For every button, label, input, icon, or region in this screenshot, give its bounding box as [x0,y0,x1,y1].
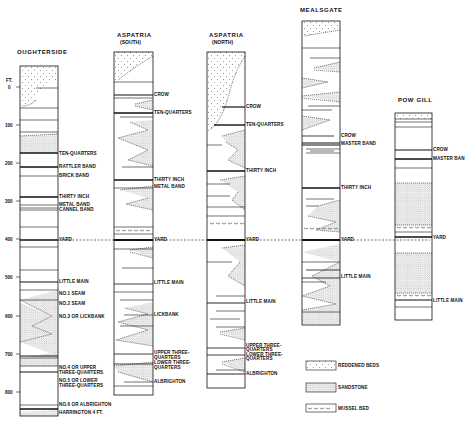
svg-text:REDDENED BEDS: REDDENED BEDS [338,363,379,368]
svg-text:200: 200 [5,161,13,166]
column-title-oughterside: OUGHTERSIDE [17,49,68,55]
svg-text:LITTLE MAIN: LITTLE MAIN [433,298,463,303]
seam-labels-mealsgate: CROW MASTER BAND THIRTY INCH YARD LITTLE… [341,133,377,279]
svg-text:100: 100 [5,123,13,128]
svg-text:TEN-QUARTERS: TEN-QUARTERS [59,151,97,156]
svg-text:TEN-QUARTERS: TEN-QUARTERS [246,122,284,127]
legend-item-reddened-beds: REDDENED BEDS [306,361,379,370]
svg-text:CROW: CROW [341,133,357,138]
svg-text:0: 0 [8,85,11,90]
seam-labels-oughterside: TEN-QUARTERS RATTLER BAND BRICK BAND THI… [59,151,112,415]
svg-text:YARD: YARD [154,237,168,242]
svg-text:YARD: YARD [59,237,73,242]
svg-text:TEN-QUARTERS: TEN-QUARTERS [154,110,192,115]
svg-text:THIRTY INCH: THIRTY INCH [154,177,185,182]
svg-text:CROW: CROW [246,104,262,109]
legend-item-mussel-bed: MUSSEL BED [306,404,370,412]
svg-text:YARD: YARD [433,235,447,240]
column-oughterside: TEN-QUARTERS RATTLER BAND BRICK BAND THI… [20,66,112,416]
svg-text:MASTER BAN: MASTER BAN [433,156,465,161]
svg-text:NO.6 OR ALBRIGHTON: NO.6 OR ALBRIGHTON [59,402,112,407]
legend: REDDENED BEDS SANDSTONE MUSSEL BED [306,361,379,412]
svg-text:300: 300 [5,199,13,204]
svg-text:ALBRIGHTON: ALBRIGHTON [154,379,186,384]
svg-text:YARD: YARD [246,237,260,242]
seam-labels-aspatria-south: CROW TEN-QUARTERS THIRTY INCH METAL BAND… [154,92,192,384]
svg-text:LITTLE MAIN: LITTLE MAIN [246,299,276,304]
svg-text:NO.1 SEAM: NO.1 SEAM [59,291,85,296]
svg-text:BRICK BAND: BRICK BAND [59,173,90,178]
svg-text:RATTLER BAND: RATTLER BAND [59,164,96,169]
svg-text:THIRTY INCH: THIRTY INCH [246,168,277,173]
svg-text:600: 600 [5,314,13,319]
column-subtitle-aspatria-south: (SOUTH) [120,39,141,45]
svg-text:500: 500 [5,275,13,280]
svg-text:HARRINGTON 4 FT.: HARRINGTON 4 FT. [59,410,103,415]
svg-text:LITTLE MAIN: LITTLE MAIN [59,279,89,284]
svg-text:400: 400 [5,237,13,242]
legend-item-sandstone: SANDSTONE [306,383,368,392]
svg-text:NO.2 SEAM: NO.2 SEAM [59,301,85,306]
svg-text:MASTER BAND: MASTER BAND [341,141,377,146]
svg-text:LITTLE MAIN: LITTLE MAIN [341,274,371,279]
depth-axis: FT. 0 100 200 300 400 500 600 700 800 [5,78,20,395]
column-title-pow-gill: POW GILL [398,97,432,103]
svg-text:MUSSEL BED: MUSSEL BED [338,406,370,411]
stratigraphic-diagram: OUGHTERSIDE ASPATRIA (SOUTH) ASPATRIA (N… [0,0,475,423]
svg-text:800: 800 [5,390,13,395]
column-title-mealsgate: MEALSGATE [300,7,343,13]
svg-text:THREE-QUARTERS: THREE-QUARTERS [59,370,103,375]
svg-text:METAL BAND: METAL BAND [154,184,186,189]
column-title-aspatria-south: ASPATRIA [117,32,152,38]
seam-labels-pow-gill: CROW MASTER BAN YARD LITTLE MAIN [433,147,465,303]
svg-text:ALBRIGHTON: ALBRIGHTON [246,371,278,376]
svg-text:QUARTERS: QUARTERS [154,365,181,370]
svg-text:CROW: CROW [433,147,449,152]
column-aspatria-north: CROW TEN-QUARTERS THIRTY INCH YARD LITTL… [207,52,284,388]
svg-text:SANDSTONE: SANDSTONE [338,385,368,390]
svg-text:FT.: FT. [6,78,12,83]
svg-text:LITTLE MAIN: LITTLE MAIN [154,280,184,285]
svg-text:700: 700 [5,352,13,357]
svg-text:QUARTERS: QUARTERS [246,356,273,361]
svg-text:CROW: CROW [154,92,170,97]
column-title-aspatria-north: ASPATRIA [209,32,244,38]
column-pow-gill: CROW MASTER BAN YARD LITTLE MAIN [395,113,465,320]
svg-text:THIRTY INCH: THIRTY INCH [341,185,372,190]
svg-text:THIRTY INCH: THIRTY INCH [59,194,90,199]
column-aspatria-south: CROW TEN-QUARTERS THIRTY INCH METAL BAND… [114,52,192,395]
svg-text:LICKBANK: LICKBANK [154,312,179,317]
svg-text:CANNEL BAND: CANNEL BAND [59,207,94,212]
svg-text:NO.3 OR LICKBANK: NO.3 OR LICKBANK [59,314,105,319]
svg-text:THREE-QUARTERS: THREE-QUARTERS [59,383,103,388]
svg-text:YARD: YARD [341,237,355,242]
column-subtitle-aspatria-north: (NORTH) [212,39,233,45]
column-mealsgate: CROW MASTER BAND THIRTY INCH YARD LITTLE… [302,21,377,325]
